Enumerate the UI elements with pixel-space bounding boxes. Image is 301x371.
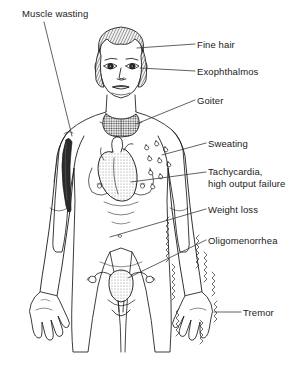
- label-tachycardia: Tachycardia,high output failure: [208, 166, 285, 189]
- leader-fine-hair: [137, 44, 195, 48]
- label-fine-hair: Fine hair: [197, 39, 235, 51]
- hyperthyroidism-figure: Muscle wasting Fine hair Exophthalmos Go…: [0, 0, 301, 371]
- leader-exophthalmos: [140, 68, 195, 71]
- label-tachycardia-line2: high output failure: [208, 178, 285, 189]
- label-tachycardia-line1: Tachycardia,: [208, 166, 263, 177]
- label-exophthalmos: Exophthalmos: [197, 66, 258, 78]
- label-sweating: Sweating: [208, 138, 248, 150]
- label-goiter: Goiter: [197, 95, 223, 107]
- label-weight-loss: Weight loss: [208, 204, 258, 216]
- label-muscle-wasting: Muscle wasting: [22, 8, 88, 20]
- label-tremor: Tremor: [243, 307, 274, 319]
- head-group: [95, 27, 147, 117]
- leader-goiter: [136, 100, 195, 124]
- leader-muscle-wasting: [44, 22, 72, 136]
- label-oligomenorrhea: Oligomenorrhea: [208, 235, 278, 247]
